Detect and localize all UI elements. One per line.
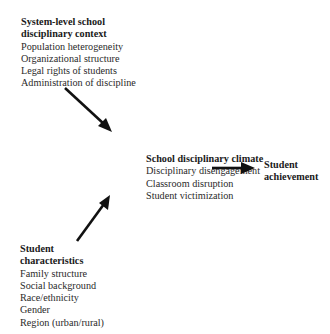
arrow-student-to-climate-icon <box>77 195 110 241</box>
arrow-climate-to-achievement-icon <box>212 162 255 174</box>
arrow-system-to-climate-icon <box>65 88 112 132</box>
arrows-layer <box>0 0 330 334</box>
